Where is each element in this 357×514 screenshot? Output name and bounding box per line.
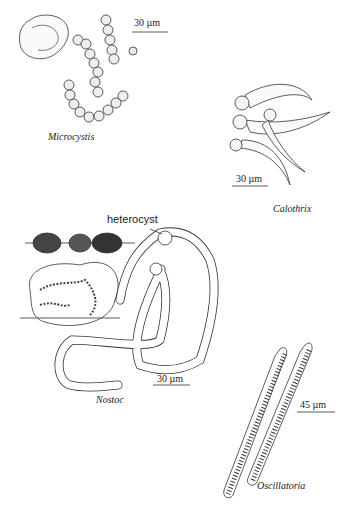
calothrix-scale-bar: 30 µm	[236, 173, 262, 184]
calothrix-label: Calothrix	[273, 203, 311, 214]
oscillatoria-scale-bar: 45 µm	[300, 399, 326, 410]
heterocyst-label: heterocyst	[107, 213, 158, 225]
nostoc-label: Nostoc	[96, 394, 124, 405]
nostoc-scale-bar: 30 µm	[157, 373, 183, 384]
calothrix-filaments	[230, 84, 330, 185]
oscillatoria-filaments	[224, 343, 312, 498]
drawing-canvas	[0, 0, 357, 514]
microcystis-scale-bar: 30 µm	[134, 17, 160, 28]
microcystis-chain	[64, 15, 137, 122]
oscillatoria-label: Oscillatoria	[257, 480, 305, 491]
microcystis-colony	[19, 15, 68, 59]
microcystis-label: Microcystis	[48, 131, 94, 142]
nostoc-colony	[20, 229, 214, 387]
